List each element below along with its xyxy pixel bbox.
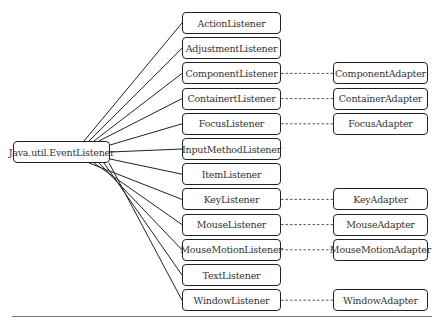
inheritance-line xyxy=(89,163,182,199)
listener-node: TextListener xyxy=(182,264,281,286)
listener-node: ContainertListener xyxy=(182,88,281,110)
listener-node: ItemListener xyxy=(182,163,281,185)
inheritance-line xyxy=(89,48,182,141)
inheritance-line xyxy=(99,163,182,250)
adapter-node: KeyAdapter xyxy=(333,188,428,210)
adapter-node: MouseAdapter xyxy=(333,214,428,236)
adapter-node: ComponentAdapter xyxy=(333,62,428,84)
listener-node: InputMethodListener xyxy=(182,138,281,160)
inheritance-line xyxy=(104,163,182,275)
adapter-node: FocusAdapter xyxy=(333,113,428,135)
adapter-node: ContainerAdapter xyxy=(333,88,428,110)
bottom-divider xyxy=(12,316,432,317)
listener-node: MouseListener xyxy=(182,214,281,236)
listener-node: WindowListener xyxy=(182,289,281,311)
listener-node: AdjustmentListener xyxy=(182,37,281,59)
adapter-node: MouseMotionAdapter xyxy=(333,239,428,261)
listener-node: ComponentListener xyxy=(182,62,281,84)
inheritance-line xyxy=(94,73,182,141)
inheritance-line xyxy=(110,159,182,174)
adapter-node: WindowAdapter xyxy=(333,289,428,311)
listener-node: KeyListener xyxy=(182,188,281,210)
listener-node: ActionListener xyxy=(182,12,281,34)
inheritance-line xyxy=(110,149,182,152)
listener-node: FocusListener xyxy=(182,113,281,135)
root-node-event-listener: Java.util.EventListener xyxy=(13,141,110,163)
inheritance-line xyxy=(109,163,182,300)
listener-node: MouseMotionListener xyxy=(182,239,281,261)
inheritance-line xyxy=(110,124,182,145)
